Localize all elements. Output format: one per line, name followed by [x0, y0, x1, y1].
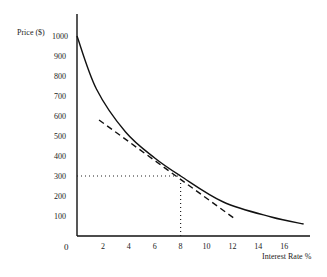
- x-tick-label: 8: [179, 242, 183, 251]
- y-tick-label: 800: [54, 72, 66, 81]
- x-axis-title: Interest Rate %: [262, 252, 312, 261]
- chart: Price ($) 100200300400500600700800900100…: [0, 0, 327, 277]
- y-tick-labels: 1002003004005006007008009001000: [52, 32, 68, 221]
- y-tick-label: 500: [54, 132, 66, 141]
- y-tick-label: 700: [54, 92, 66, 101]
- x-tick-labels: 246810121416: [101, 242, 288, 251]
- x-tick-label: 12: [228, 242, 236, 251]
- x-tick-label: 16: [280, 242, 288, 251]
- x-tick-label: 4: [127, 242, 131, 251]
- y-tick-label: 300: [54, 172, 66, 181]
- y-tick-label: 600: [54, 112, 66, 121]
- x-tick-label: 14: [254, 242, 262, 251]
- price-yield-curve: [77, 36, 304, 224]
- y-tick-label: 200: [54, 192, 66, 201]
- x-tick-label: 6: [153, 242, 157, 251]
- y-axis-title: Price ($): [17, 28, 45, 37]
- y-tick-label: 400: [54, 152, 66, 161]
- origin-label: 0: [64, 242, 69, 252]
- y-tick-label: 1000: [52, 32, 68, 41]
- y-tick-label: 100: [54, 212, 66, 221]
- tangent-line: [99, 120, 234, 218]
- x-tick-label: 10: [203, 242, 211, 251]
- x-tick-label: 2: [101, 242, 105, 251]
- dotted-guides: [77, 176, 181, 236]
- y-tick-label: 900: [54, 52, 66, 61]
